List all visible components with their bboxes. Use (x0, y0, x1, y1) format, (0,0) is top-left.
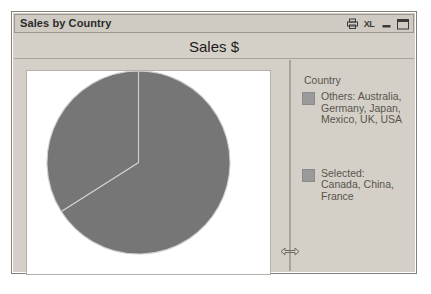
pane-splitter[interactable] (289, 60, 291, 271)
pie-chart[interactable] (27, 71, 270, 274)
maximize-icon[interactable] (397, 18, 409, 30)
chart-window: Sales by Country XL (11, 11, 417, 274)
legend-item-selected[interactable]: Selected: Canada, China, France (302, 168, 408, 203)
legend-pane: Country Others: Australia, Germany, Japa… (293, 60, 414, 271)
legend-spacer (302, 130, 408, 168)
legend-title: Country (304, 74, 408, 86)
plot-area[interactable] (26, 70, 271, 275)
legend-item-others[interactable]: Others: Australia, Germany, Japan, Mexic… (302, 91, 408, 126)
legend-swatch-selected (302, 169, 315, 182)
window-titlebar[interactable]: Sales by Country XL (14, 14, 414, 33)
legend-label-others: Others: Australia, Germany, Japan, Mexic… (321, 91, 402, 126)
minimize-icon[interactable] (380, 18, 392, 30)
chart-body: Country Others: Australia, Germany, Japa… (14, 60, 414, 271)
titlebar-button-group: XL (346, 18, 409, 30)
window-title: Sales by Country (20, 15, 346, 32)
excel-export-icon[interactable]: XL (363, 18, 375, 30)
excel-export-label: XL (364, 19, 375, 29)
legend-swatch-others (302, 92, 315, 105)
chart-header-strip: Sales $ (14, 34, 414, 59)
legend-label-selected: Selected: Canada, China, France (321, 168, 394, 203)
chart-pane (14, 60, 289, 271)
measure-title: Sales $ (189, 38, 239, 55)
print-icon[interactable] (346, 18, 358, 30)
